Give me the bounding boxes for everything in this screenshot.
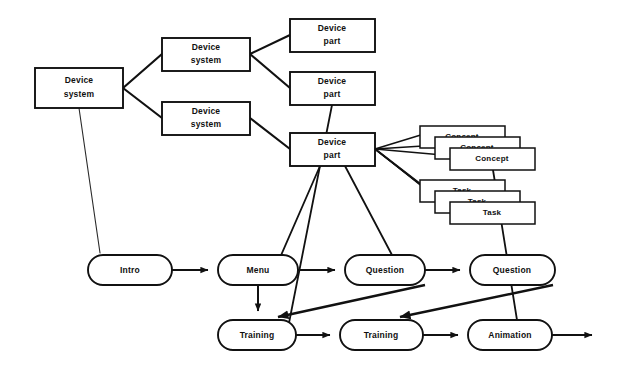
- link-system-lower-to-part3: [250, 118, 290, 149]
- tree-node-device-part-3[interactable]: Device part: [290, 133, 375, 166]
- question-2-label: Question: [493, 265, 531, 275]
- device-part-1-label-line2: part: [324, 36, 341, 46]
- flow-node-training-2[interactable]: Training: [340, 320, 423, 350]
- arrow-question2-back-to-training2: [400, 285, 553, 317]
- tree-node-root[interactable]: Device system: [35, 68, 123, 108]
- device-part-2-label-line2: part: [324, 89, 341, 99]
- link-root-to-system-lower: [123, 88, 162, 118]
- tree-node-device-part-2[interactable]: Device part: [290, 72, 375, 105]
- diagram-svg: Device system Device system Device syste…: [0, 0, 625, 371]
- concept-stack[interactable]: Concept Concept Concept: [420, 126, 535, 170]
- flow-node-menu[interactable]: Menu: [218, 255, 298, 285]
- device-part-3-label-line2: part: [324, 150, 341, 160]
- concept-label-front: Concept: [475, 154, 509, 163]
- device-part-2-label-line1: Device: [318, 76, 347, 86]
- training-2-label: Training: [364, 330, 399, 340]
- arrow-question1-back-to-training1: [278, 285, 425, 317]
- device-system-upper-label-line2: system: [191, 55, 222, 65]
- question-1-label: Question: [366, 265, 404, 275]
- flow-node-question-2[interactable]: Question: [470, 255, 555, 285]
- device-system-root-box[interactable]: [35, 68, 123, 108]
- device-system-upper-label-line1: Device: [192, 42, 221, 52]
- intro-label: Intro: [120, 265, 140, 275]
- flow-node-training-1[interactable]: Training: [218, 320, 296, 350]
- device-system-root-label-line1: Device: [65, 75, 94, 85]
- device-system-lower-label-line2: system: [191, 119, 222, 129]
- flow-node-intro[interactable]: Intro: [88, 255, 172, 285]
- device-part-3-label-line1: Device: [318, 137, 347, 147]
- device-part-1-label-line1: Device: [318, 23, 347, 33]
- tree-node-device-part-1[interactable]: Device part: [290, 19, 375, 52]
- flow-node-question-1[interactable]: Question: [345, 255, 425, 285]
- task-label-front: Task: [483, 208, 502, 217]
- tree-node-device-system-lower[interactable]: Device system: [162, 102, 250, 135]
- animation-label: Animation: [488, 330, 531, 340]
- flow-node-animation[interactable]: Animation: [468, 320, 552, 350]
- link-part3-to-question1: [345, 166, 392, 255]
- link-system-upper-to-part2: [250, 54, 290, 88]
- link-root-to-system-upper: [123, 54, 162, 88]
- link-system-upper-to-part1: [250, 35, 290, 54]
- device-system-root-label-line2: system: [64, 89, 95, 99]
- menu-label: Menu: [247, 265, 270, 275]
- task-stack[interactable]: Task Task Task: [420, 180, 535, 224]
- training-1-label: Training: [240, 330, 275, 340]
- link-root-to-intro: [79, 108, 100, 253]
- device-system-lower-label-line1: Device: [192, 106, 221, 116]
- tree-node-device-system-upper[interactable]: Device system: [162, 38, 250, 71]
- diagram-canvas: Device system Device system Device syste…: [0, 0, 625, 371]
